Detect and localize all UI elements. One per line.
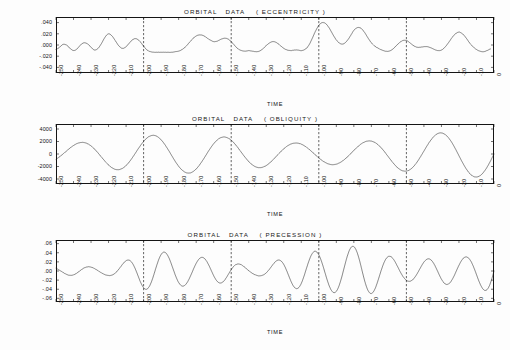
x-tick-label: -250 — [58, 65, 64, 76]
x-tick-label: -80 — [356, 68, 362, 76]
panel-title-precession: ORBITAL DATA ( PRECESSION ) — [0, 231, 510, 238]
x-tick-label: -250 — [58, 176, 64, 187]
x-tick-label: -100 — [321, 176, 327, 187]
x-tick-label: -160 — [216, 176, 222, 187]
y-tick-label: .020 — [24, 31, 52, 37]
x-tick-label: -20 — [461, 297, 467, 305]
y-tick-label: -.040 — [24, 64, 52, 70]
x-tick-label: -170 — [198, 65, 204, 76]
x-tick-label: -140 — [251, 294, 257, 305]
x-tick-label: -70 — [373, 179, 379, 187]
x-axis-title-precession: TIME — [56, 329, 494, 335]
y-tick-label: -.02 — [24, 277, 52, 283]
y-tick-label: .04 — [24, 250, 52, 256]
y-tick-label: -2000 — [24, 163, 52, 169]
x-tick-label: -110 — [303, 294, 309, 305]
x-tick-label: 0 — [496, 73, 502, 76]
eccentricity-trace-svg — [56, 17, 494, 73]
y-tick-label: -.04 — [24, 286, 52, 292]
x-tick-label: -80 — [356, 179, 362, 187]
x-tick-label: 0 — [496, 184, 502, 187]
x-tick-label: -170 — [198, 176, 204, 187]
x-tick-label: -100 — [321, 65, 327, 76]
y-tick-label: 0 — [24, 151, 52, 157]
x-tick-label: -70 — [373, 297, 379, 305]
x-tick-label: -230 — [93, 176, 99, 187]
y-tick-label: .00 — [24, 268, 52, 274]
x-tick-label: -30 — [443, 179, 449, 187]
x-tick-label: -130 — [268, 294, 274, 305]
x-tick-label: -30 — [443, 297, 449, 305]
x-tick-label: -90 — [338, 297, 344, 305]
panel-eccentricity: ORBITAL DATA ( ECCENTRICITY ) .040.020.0… — [0, 4, 510, 108]
x-tick-label: -80 — [356, 297, 362, 305]
x-tick-label: -10 — [478, 68, 484, 76]
x-tick-label: -180 — [181, 294, 187, 305]
y-tick-label: .06 — [24, 240, 52, 246]
x-tick-label: -250 — [58, 294, 64, 305]
x-tick-label: -50 — [408, 179, 414, 187]
panel-precession: ORBITAL DATA ( PRECESSION ) .06.04.02.00… — [0, 228, 510, 346]
x-tick-label: -130 — [268, 176, 274, 187]
x-tick-label: -240 — [76, 65, 82, 76]
x-tick-label: -110 — [303, 65, 309, 76]
x-tick-label: -50 — [408, 68, 414, 76]
x-axis-title-eccentricity: TIME — [56, 101, 494, 107]
x-tick-label: -180 — [181, 65, 187, 76]
x-tick-label: -190 — [163, 176, 169, 187]
plot-area-eccentricity — [56, 17, 494, 73]
x-tick-label: -70 — [373, 68, 379, 76]
x-tick-label: -220 — [111, 176, 117, 187]
x-tick-label: -220 — [111, 65, 117, 76]
x-tick-label: -190 — [163, 65, 169, 76]
x-tick-label: -60 — [391, 68, 397, 76]
x-tick-label: -10 — [478, 179, 484, 187]
x-tick-label: -60 — [391, 179, 397, 187]
x-tick-label: -140 — [251, 65, 257, 76]
plot-area-obliquity — [56, 124, 494, 184]
x-tick-label: -190 — [163, 294, 169, 305]
x-tick-label: -140 — [251, 176, 257, 187]
x-tick-label: -120 — [286, 176, 292, 187]
x-tick-label: -210 — [128, 294, 134, 305]
x-tick-label: -240 — [76, 176, 82, 187]
x-tick-label: -160 — [216, 294, 222, 305]
y-tick-label: -4000 — [24, 176, 52, 182]
panel-obliquity: ORBITAL DATA ( OBLIQUITY ) 400020000-200… — [0, 112, 510, 218]
x-tick-label: -200 — [146, 176, 152, 187]
x-tick-label: -130 — [268, 65, 274, 76]
y-tick-label: 2000 — [24, 138, 52, 144]
x-tick-label: -110 — [303, 176, 309, 187]
x-tick-label: -20 — [461, 179, 467, 187]
y-tick-label: .02 — [24, 259, 52, 265]
x-tick-label: -160 — [216, 65, 222, 76]
x-tick-label: -30 — [443, 68, 449, 76]
y-tick-label: 4000 — [24, 126, 52, 132]
x-tick-label: -40 — [426, 179, 432, 187]
x-tick-label: -200 — [146, 294, 152, 305]
x-tick-label: -120 — [286, 65, 292, 76]
x-tick-label: -210 — [128, 65, 134, 76]
x-tick-label: 0 — [496, 302, 502, 305]
x-tick-label: -210 — [128, 176, 134, 187]
x-tick-label: -150 — [233, 294, 239, 305]
x-tick-label: -40 — [426, 68, 432, 76]
x-tick-label: -150 — [233, 65, 239, 76]
x-tick-label: -40 — [426, 297, 432, 305]
precession-trace-svg — [56, 240, 494, 302]
obliquity-trace-svg — [56, 124, 494, 184]
x-tick-label: -230 — [93, 65, 99, 76]
panel-title-obliquity: ORBITAL DATA ( OBLIQUITY ) — [0, 115, 510, 122]
x-tick-label: -200 — [146, 65, 152, 76]
y-tick-label: -.06 — [24, 295, 52, 301]
x-tick-label: -170 — [198, 294, 204, 305]
panel-title-eccentricity: ORBITAL DATA ( ECCENTRICITY ) — [0, 8, 510, 15]
x-tick-label: -20 — [461, 68, 467, 76]
x-tick-label: -100 — [321, 294, 327, 305]
y-tick-label: .040 — [24, 19, 52, 25]
x-tick-label: -50 — [408, 297, 414, 305]
y-tick-label: .000 — [24, 42, 52, 48]
x-tick-label: -60 — [391, 297, 397, 305]
y-tick-label: -.020 — [24, 53, 52, 59]
x-tick-label: -230 — [93, 294, 99, 305]
